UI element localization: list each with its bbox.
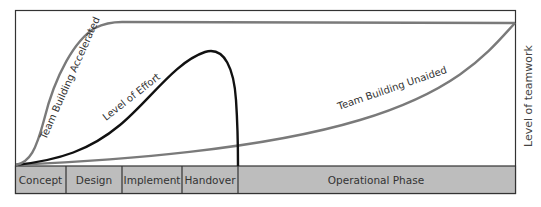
y-axis-label: Level of teamwork (522, 45, 535, 147)
phase-design: Design (76, 174, 112, 186)
phase-handover: Handover (184, 174, 236, 186)
phase-operational: Operational Phase (328, 174, 424, 186)
teamwork-diagram: Concept Design Implement Handover Operat… (0, 0, 541, 207)
phase-implement: Implement (124, 174, 181, 186)
phase-bar: Concept Design Implement Handover Operat… (16, 166, 516, 194)
phase-concept: Concept (19, 174, 62, 186)
